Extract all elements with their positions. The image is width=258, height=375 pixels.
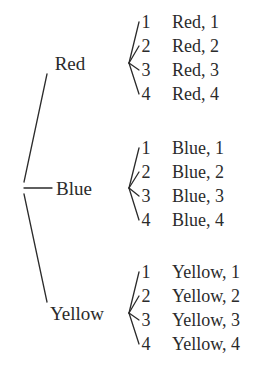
leaf-digit-blue-4: 4: [142, 211, 151, 229]
leaf-line-yellow-4: [129, 313, 139, 344]
leaf-digit-blue-3: 3: [142, 187, 151, 205]
node-label-red: Red: [55, 54, 86, 73]
outcome-label-red-4: Red, 4: [172, 85, 219, 103]
outcome-label-red-2: Red, 2: [172, 37, 219, 55]
outcome-label-yellow-4: Yellow, 4: [172, 335, 240, 353]
outcome-label-blue-3: Blue, 3: [172, 187, 224, 205]
leaf-line-red-1: [129, 22, 139, 63]
branch-line-yellow: [24, 194, 47, 302]
probability-tree-diagram: Red1Red, 12Red, 23Red, 34Red, 4Blue1Blue…: [0, 0, 258, 375]
leaf-digit-yellow-1: 1: [142, 263, 151, 281]
outcome-label-blue-1: Blue, 1: [172, 139, 224, 157]
leaf-digit-red-4: 4: [142, 85, 151, 103]
second-stage-branches: [129, 22, 139, 344]
node-label-yellow: Yellow: [50, 304, 104, 323]
leaf-digit-yellow-2: 2: [142, 287, 151, 305]
leaf-digit-red-2: 2: [142, 37, 151, 55]
leaf-digit-yellow-3: 3: [142, 311, 151, 329]
outcome-label-blue-2: Blue, 2: [172, 163, 224, 181]
outcome-label-yellow-2: Yellow, 2: [172, 287, 240, 305]
outcome-label-red-1: Red, 1: [172, 13, 219, 31]
leaf-digit-red-1: 1: [142, 13, 151, 31]
leaf-digit-red-3: 3: [142, 61, 151, 79]
leaf-digit-yellow-4: 4: [142, 335, 151, 353]
leaf-digit-blue-2: 2: [142, 163, 151, 181]
outcome-label-red-3: Red, 3: [172, 61, 219, 79]
leaf-line-red-4: [129, 63, 139, 94]
leaf-digit-blue-1: 1: [142, 139, 151, 157]
branch-line-red: [24, 74, 47, 182]
leaf-line-yellow-1: [129, 272, 139, 313]
first-stage-branches: [24, 74, 52, 302]
leaf-line-blue-1: [129, 148, 139, 188]
node-label-blue: Blue: [56, 179, 92, 198]
outcome-label-blue-4: Blue, 4: [172, 211, 224, 229]
outcome-label-yellow-3: Yellow, 3: [172, 311, 240, 329]
outcome-label-yellow-1: Yellow, 1: [172, 263, 240, 281]
